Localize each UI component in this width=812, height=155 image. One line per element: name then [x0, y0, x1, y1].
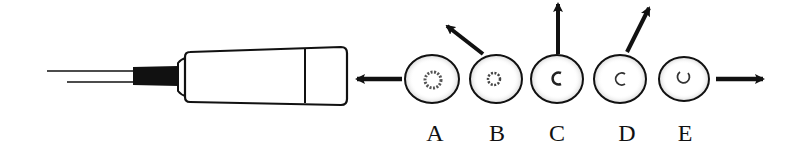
- cell-label-c: C: [542, 120, 572, 146]
- arrow-up-left-icon: [447, 26, 483, 54]
- cell-A: [405, 55, 459, 103]
- cell-C: [531, 55, 583, 103]
- pipette-barrel: [185, 47, 347, 105]
- cell-E: [659, 57, 709, 101]
- cell-label-d: D: [612, 120, 642, 146]
- arrow-up-right-icon: [627, 8, 649, 52]
- cell-label-e: E: [670, 120, 700, 146]
- cell-label-b: B: [482, 120, 512, 146]
- cell-B: [470, 55, 522, 103]
- pipette-hub: [133, 66, 178, 86]
- cell-label-a: A: [420, 120, 450, 146]
- micropipette: [47, 47, 347, 105]
- cell-D: [594, 55, 646, 103]
- diagram-canvas: A B C D E: [0, 0, 812, 155]
